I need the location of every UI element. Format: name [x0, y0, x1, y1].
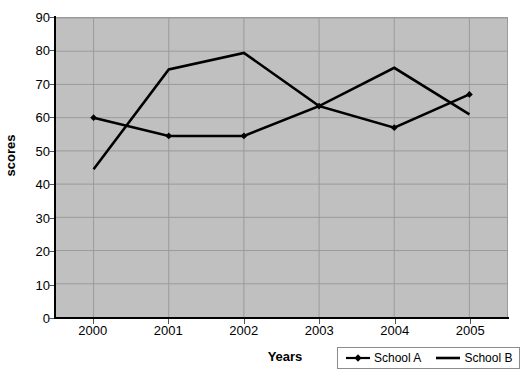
legend-entry-school-a[interactable]: School A — [345, 352, 421, 364]
diamond-line-marker-icon — [345, 352, 371, 364]
chart-screenshot: 0102030405060708090 20002001200220032004… — [0, 0, 520, 385]
y-axis-line — [54, 16, 56, 319]
x-tick-mark — [168, 319, 169, 324]
data-series-layer — [56, 18, 507, 317]
y-tick-mark — [48, 17, 54, 18]
x-tick-mark — [395, 319, 396, 324]
x-axis-line — [54, 317, 509, 319]
y-tick-mark — [48, 50, 54, 51]
x-tick-label: 2004 — [365, 324, 425, 337]
y-tick-mark — [48, 285, 54, 286]
data-point-marker — [165, 133, 172, 140]
y-tick-mark — [48, 251, 54, 252]
x-axis-title: Years — [230, 349, 340, 364]
y-tick-label: 10 — [4, 279, 50, 292]
series-line-school-a — [94, 94, 470, 136]
legend-label-school-a: School A — [374, 352, 421, 364]
plot-area — [55, 17, 508, 318]
legend-entry-school-b[interactable]: School B — [435, 352, 512, 364]
x-tick-mark — [244, 319, 245, 324]
x-tick-label: 2001 — [138, 324, 198, 337]
chart-legend: School A School B — [337, 347, 520, 369]
y-tick-label: 30 — [4, 212, 50, 225]
y-tick-label: 70 — [4, 78, 50, 91]
y-axis-title: scores — [3, 126, 18, 186]
y-tick-label: 90 — [4, 11, 50, 24]
x-tick-label: 2005 — [440, 324, 500, 337]
y-tick-label: 80 — [4, 44, 50, 57]
data-point-marker — [90, 114, 97, 121]
data-point-marker — [241, 133, 248, 140]
series-line-school-b — [94, 53, 470, 169]
x-tick-mark — [470, 319, 471, 324]
x-tick-mark — [93, 319, 94, 324]
x-tick-label: 2002 — [214, 324, 274, 337]
x-tick-label: 2000 — [63, 324, 123, 337]
y-tick-label: 20 — [4, 245, 50, 258]
y-tick-mark — [48, 218, 54, 219]
x-tick-mark — [319, 319, 320, 324]
x-tick-label: 2003 — [289, 324, 349, 337]
plain-line-marker-icon — [435, 352, 461, 364]
y-tick-mark — [48, 84, 54, 85]
y-tick-label: 60 — [4, 111, 50, 124]
y-tick-mark — [48, 318, 54, 319]
legend-label-school-b: School B — [464, 352, 512, 364]
y-tick-mark — [48, 151, 54, 152]
y-tick-mark — [48, 184, 54, 185]
y-tick-mark — [48, 117, 54, 118]
x-axis-tick-labels: 200020012002200320042005 — [0, 324, 520, 344]
